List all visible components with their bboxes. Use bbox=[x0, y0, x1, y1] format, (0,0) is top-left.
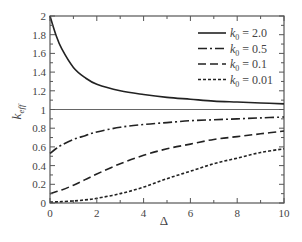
y-tick-label: 2 bbox=[41, 10, 47, 22]
legend: k0 = 2.0k0 = 0.5k0 = 0.1k0 = 0.01 bbox=[198, 26, 273, 89]
legend-item: k0 = 2.0 bbox=[198, 26, 267, 42]
y-tick-label: 1.8 bbox=[32, 29, 46, 41]
legend-item: k0 = 0.01 bbox=[198, 73, 273, 89]
y-tick-label: 1 bbox=[41, 104, 47, 116]
series-line-3 bbox=[50, 149, 284, 202]
y-tick-label: 0.6 bbox=[32, 141, 46, 153]
x-tick-label: 0 bbox=[47, 207, 53, 219]
chart: 00.20.40.60.811.21.41.61.82 0246810 Δ ke… bbox=[0, 0, 302, 242]
svg-text:keff: keff bbox=[9, 103, 26, 119]
x-axis-label: Δ bbox=[160, 213, 168, 228]
y-tick-label: 0.2 bbox=[32, 178, 46, 190]
y-tick-label: 0 bbox=[41, 197, 47, 209]
y-axis-label: keff bbox=[9, 103, 26, 119]
legend-label: k0 = 0.1 bbox=[230, 57, 267, 73]
x-tick-label: 10 bbox=[279, 207, 291, 219]
y-tick-label: 1.2 bbox=[32, 85, 46, 97]
legend-item: k0 = 0.1 bbox=[198, 57, 267, 73]
series-line-2 bbox=[50, 131, 284, 194]
x-tick-label: 4 bbox=[141, 207, 147, 219]
x-tick-label: 2 bbox=[94, 207, 100, 219]
y-tick-label: 1.6 bbox=[32, 47, 46, 59]
x-tick-label: 6 bbox=[188, 207, 194, 219]
legend-label: k0 = 0.01 bbox=[230, 73, 273, 89]
legend-item: k0 = 0.5 bbox=[198, 42, 267, 58]
x-tick-label: 8 bbox=[234, 207, 240, 219]
legend-label: k0 = 0.5 bbox=[230, 42, 267, 58]
y-tick-label: 0.4 bbox=[32, 160, 46, 172]
y-tick-label: 0.8 bbox=[32, 122, 46, 134]
legend-label: k0 = 2.0 bbox=[230, 26, 267, 42]
y-tick-label: 1.4 bbox=[32, 66, 46, 78]
